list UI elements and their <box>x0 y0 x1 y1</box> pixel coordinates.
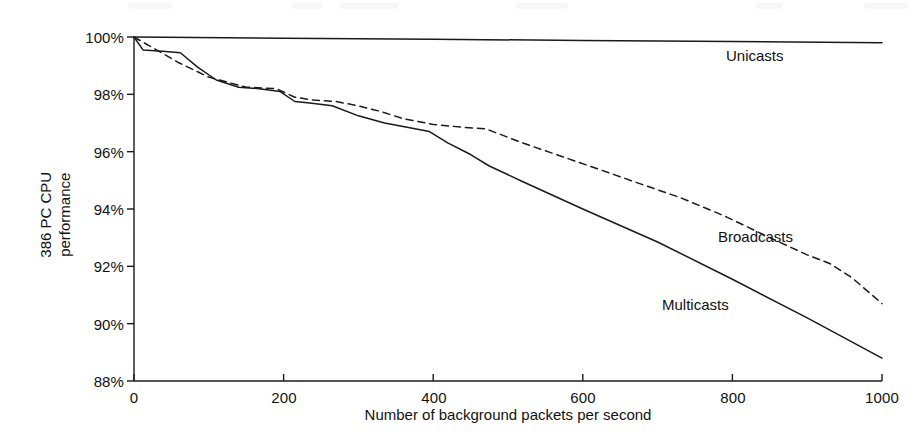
plot-canvas <box>0 0 920 437</box>
series-line-unicasts <box>134 37 882 43</box>
series-lines <box>134 37 882 358</box>
series-line-broadcasts <box>134 37 882 304</box>
axes <box>127 37 882 381</box>
series-line-multicasts <box>134 37 882 358</box>
chart-figure: 100% 98% 96% 94% 92% 90% 88% 0 200 400 6… <box>0 0 920 437</box>
